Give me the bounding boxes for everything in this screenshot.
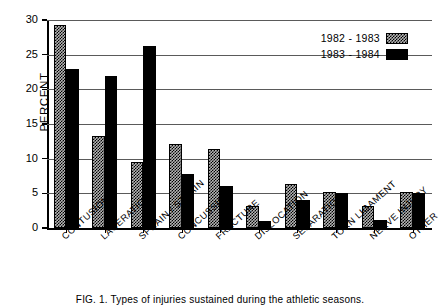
y-tick-label: 0 <box>10 222 38 233</box>
injury-type-bar-chart: PERCENT 051015202530 CONTUSIONLACERATION… <box>0 0 440 305</box>
legend-swatch <box>386 49 408 60</box>
figure-caption: FIG. 1. Types of injuries sustained duri… <box>0 294 440 305</box>
y-tick-label: 10 <box>10 153 38 164</box>
y-tick-label: 5 <box>10 187 38 198</box>
gridline <box>47 20 432 21</box>
bar <box>66 69 79 228</box>
y-tick-label: 15 <box>10 118 38 129</box>
legend-label: 1982 - 1983 <box>321 32 380 44</box>
legend: 1982 - 19831983 - 1984 <box>296 30 408 62</box>
legend-item: 1982 - 1983 <box>296 30 408 46</box>
legend-item: 1983 - 1984 <box>296 46 408 62</box>
y-tick-label: 20 <box>10 83 38 94</box>
legend-swatch <box>386 33 408 44</box>
bar <box>54 25 67 228</box>
y-tick-label: 30 <box>10 14 38 25</box>
y-tick-label: 25 <box>10 49 38 60</box>
legend-label: 1983 - 1984 <box>321 48 380 60</box>
